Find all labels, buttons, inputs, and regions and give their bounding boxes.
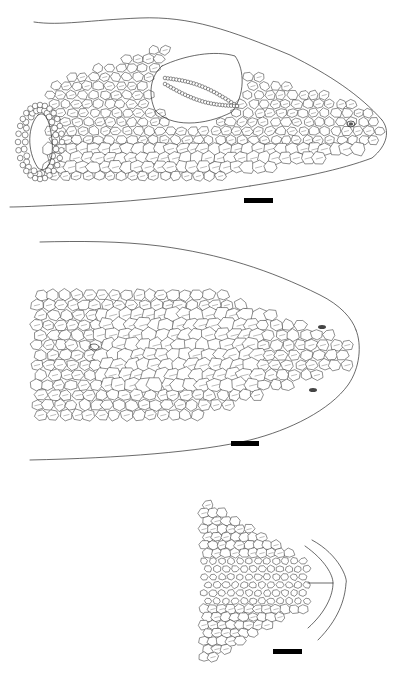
scale-bar-ventral (273, 649, 302, 654)
head-outline-bottom (10, 186, 250, 207)
nostril-inner (349, 122, 353, 125)
dorsal-scale-field (30, 289, 354, 422)
dorsal-head-view (30, 241, 360, 460)
figure-canvas (0, 0, 398, 677)
nostril-right (309, 388, 317, 392)
scale-bar-dorsal (231, 441, 259, 446)
lateral-head-view (10, 18, 387, 207)
ventral-chin-view (198, 500, 346, 662)
eyelid-granules (163, 76, 239, 108)
chin-scale-field (198, 500, 311, 662)
scientific-figure: Line drawings of lizard head scalation i… (0, 0, 398, 677)
mental-scale-outer (312, 540, 346, 640)
scale-bar-lateral (244, 198, 273, 203)
lateral-scale-field (15, 45, 385, 182)
nostril-left (318, 325, 326, 329)
